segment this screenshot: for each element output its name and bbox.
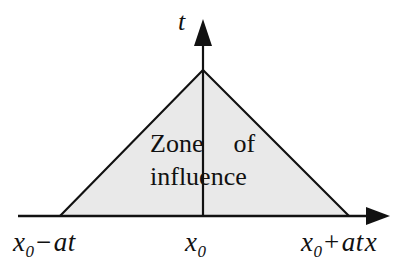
zone-word-zone: Zone bbox=[150, 129, 203, 158]
t-axis-arrowhead-icon bbox=[194, 19, 212, 46]
tick-right-subscript: 0 bbox=[313, 242, 322, 261]
tick-left-subscript: 0 bbox=[25, 242, 34, 261]
tick-right-term: at bbox=[342, 227, 364, 257]
tick-left-term: at bbox=[54, 227, 76, 257]
zone-word-of: of bbox=[233, 129, 255, 158]
tick-label-center: x0 bbox=[185, 229, 206, 260]
tick-left-operator: − bbox=[34, 227, 54, 257]
x-axis-arrowhead-icon bbox=[366, 207, 390, 225]
x-axis-label: x bbox=[365, 227, 377, 257]
t-axis-label: t bbox=[178, 9, 186, 35]
tick-label-right: x0+atx bbox=[301, 229, 377, 260]
tick-right-base: x bbox=[301, 227, 313, 257]
zone-label-line-2: influence bbox=[150, 164, 247, 190]
tick-center-subscript: 0 bbox=[197, 242, 206, 261]
tick-right-operator: + bbox=[322, 227, 342, 257]
zone-of-influence-diagram: t Zoneof influence x0−at x0 x0+atx bbox=[0, 0, 420, 268]
zone-label-line-1: Zoneof bbox=[150, 131, 255, 157]
tick-label-left: x0−at bbox=[13, 229, 76, 260]
tick-left-base: x bbox=[13, 227, 25, 257]
tick-center-base: x bbox=[185, 227, 197, 257]
